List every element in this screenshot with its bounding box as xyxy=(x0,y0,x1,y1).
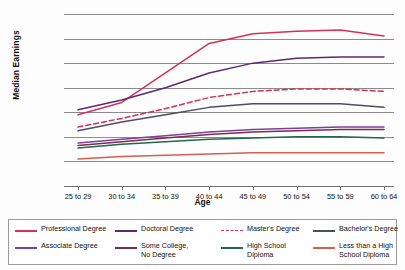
x-axis-title: Age xyxy=(0,197,405,207)
legend-swatch-icon xyxy=(313,243,335,252)
legend-label: Less than a High School Diploma xyxy=(339,241,393,259)
x-axis-tick xyxy=(78,186,79,190)
gridline xyxy=(64,186,394,187)
x-axis-tick xyxy=(122,186,123,190)
legend-item[interactable]: Doctoral Degree xyxy=(115,224,221,238)
y-axis-title: Median Earnings xyxy=(11,20,21,110)
legend-swatch-icon xyxy=(115,226,137,235)
x-axis-tick xyxy=(340,186,341,190)
legend-swatch-icon xyxy=(115,243,137,252)
legend: Professional DegreeDoctoral DegreeMaster… xyxy=(8,219,397,265)
x-axis-tick xyxy=(297,186,298,190)
earnings-by-age-line-chart: Median Earnings $140,000$120,000$100,000… xyxy=(0,0,405,270)
plot-area: $140,000$120,000$100,000$80,000$60,000$4… xyxy=(64,14,394,186)
legend-item[interactable]: Professional Degree xyxy=(15,224,115,238)
x-axis-tick xyxy=(253,186,254,190)
legend-label: High School Diploma xyxy=(247,241,286,259)
legend-label: Some College, No Degree xyxy=(141,241,188,259)
series-lines xyxy=(64,14,394,186)
series-line xyxy=(78,57,384,110)
x-axis-tick xyxy=(209,186,210,190)
legend-swatch-icon xyxy=(221,243,243,252)
legend-item[interactable]: High School Diploma xyxy=(221,241,313,262)
legend-label: Professional Degree xyxy=(41,224,106,233)
legend-item[interactable]: Bachelor's Degree xyxy=(313,224,403,238)
legend-swatch-icon xyxy=(313,226,335,235)
legend-item[interactable]: Associate Degree xyxy=(15,241,115,262)
series-line xyxy=(78,153,384,159)
legend-swatch-icon xyxy=(15,243,37,252)
x-axis-tick xyxy=(384,186,385,190)
legend-item[interactable]: Master's Degree xyxy=(221,224,313,238)
legend-item[interactable]: Less than a High School Diploma xyxy=(313,241,403,262)
series-line xyxy=(78,30,384,115)
legend-swatch-icon xyxy=(221,226,243,235)
legend-label: Bachelor's Degree xyxy=(339,224,398,233)
legend-label: Associate Degree xyxy=(41,241,98,250)
legend-item[interactable]: Some College, No Degree xyxy=(115,241,221,262)
legend-swatch-icon xyxy=(15,226,37,235)
x-axis-tick xyxy=(165,186,166,190)
legend-label: Master's Degree xyxy=(247,224,300,233)
legend-label: Doctoral Degree xyxy=(141,224,193,233)
